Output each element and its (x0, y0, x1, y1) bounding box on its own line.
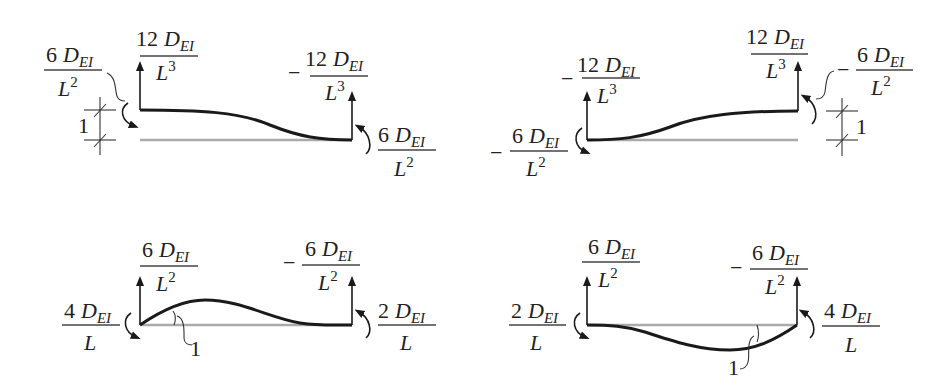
deflected-beam (140, 110, 352, 140)
right-moment-arrow-icon (805, 97, 816, 124)
left-moment-label: − 6DEI L2 (490, 123, 568, 181)
right-moment-label: − 6DEI L2 (837, 42, 913, 100)
left-moment-arrow-icon (125, 313, 136, 337)
svg-text:6DEI: 6DEI (378, 122, 426, 150)
left-moment-label: 4DEI L (62, 298, 120, 355)
svg-text:12DEI: 12DEI (577, 52, 636, 80)
unit-label: 1 (190, 336, 201, 361)
svg-text:−: − (288, 60, 300, 85)
deflected-beam (587, 325, 797, 350)
right-moment-label: 2DEI L (378, 298, 436, 355)
svg-text:6DEI: 6DEI (142, 237, 190, 265)
left-moment-arrow-icon (576, 128, 586, 152)
svg-text:L2: L2 (393, 154, 414, 181)
svg-text:L: L (399, 330, 412, 355)
svg-text:L: L (844, 332, 857, 357)
svg-text:−: − (730, 255, 742, 280)
panel-1: 1 12DEI L3 6DEI L2 − 12DEI L3 6DEI L2 (44, 26, 436, 181)
svg-text:6DEI: 6DEI (752, 240, 800, 268)
svg-text:−: − (283, 250, 295, 275)
panel-2: 1 − 12DEI L3 − 6DEI L2 12DEI L3 − 6DEI L… (490, 24, 913, 181)
svg-text:L3: L3 (765, 56, 786, 83)
left-moment-arrow-icon (574, 313, 585, 337)
svg-text:6DEI: 6DEI (46, 42, 94, 70)
svg-text:L3: L3 (155, 58, 176, 85)
svg-text:4DEI: 4DEI (824, 298, 872, 326)
leader-line (816, 71, 834, 99)
unit-label: 1 (728, 355, 739, 380)
svg-text:L2: L2 (870, 73, 891, 100)
svg-text:6DEI: 6DEI (588, 234, 636, 262)
deflected-beam (587, 111, 798, 140)
left-moment-label: 2DEI L (509, 298, 566, 355)
unit-label: 1 (856, 114, 867, 139)
svg-text:L2: L2 (597, 265, 618, 292)
svg-text:−: − (561, 66, 573, 91)
panel-4: 1 6DEI L2 2DEI L − 6DEI L2 4DEI L (509, 234, 880, 380)
svg-text:12DEI: 12DEI (136, 26, 195, 54)
svg-text:L: L (529, 330, 542, 355)
svg-text:L2: L2 (764, 272, 785, 299)
svg-text:L2: L2 (155, 269, 176, 296)
left-force-label: 6DEI L2 (582, 234, 640, 292)
deflected-beam (140, 300, 352, 325)
left-moment-arrow-icon (122, 103, 134, 126)
unit-label: 1 (78, 113, 89, 138)
svg-text:12DEI: 12DEI (746, 24, 805, 52)
svg-text:L2: L2 (57, 74, 78, 101)
left-force-label: 6DEI L2 (140, 237, 198, 296)
svg-text:L3: L3 (596, 81, 617, 108)
svg-text:2DEI: 2DEI (378, 298, 426, 326)
right-force-label: − 12DEI L3 (288, 46, 368, 105)
unit-dimension: 1 (826, 98, 867, 156)
leader-line (740, 336, 754, 369)
svg-text:2DEI: 2DEI (511, 298, 559, 326)
left-moment-label: 6DEI L2 (44, 42, 102, 101)
svg-text:−: − (490, 140, 502, 165)
svg-text:4DEI: 4DEI (64, 298, 112, 326)
right-force-label: − 6DEI L2 (283, 236, 360, 295)
svg-text:6DEI: 6DEI (512, 123, 560, 151)
svg-text:L3: L3 (324, 78, 345, 105)
rotation-angle-arc (757, 325, 759, 342)
svg-text:6DEI: 6DEI (305, 236, 353, 264)
svg-text:12DEI: 12DEI (305, 46, 364, 74)
leader-line (107, 73, 125, 101)
svg-text:L2: L2 (317, 268, 338, 295)
right-moment-arrow-icon (359, 127, 370, 154)
left-force-label: − 12DEI L3 (561, 52, 640, 108)
unit-dimension: 1 (78, 97, 116, 155)
svg-text:L: L (83, 330, 96, 355)
beam-stiffness-diagram: 1 12DEI L3 6DEI L2 − 12DEI L3 6DEI L2 (0, 0, 950, 390)
rotation-angle-arc (173, 311, 175, 325)
svg-text:6DEI: 6DEI (857, 42, 905, 70)
right-moment-arrow-icon (359, 312, 370, 338)
right-moment-arrow-icon (803, 312, 814, 338)
panel-3: 1 6DEI L2 4DEI L − 6DEI L2 2DEI L (62, 236, 436, 361)
left-force-label: 12DEI L3 (136, 26, 198, 85)
svg-text:L2: L2 (525, 154, 546, 181)
svg-text:−: − (837, 57, 849, 82)
right-moment-label: 6DEI L2 (378, 122, 436, 181)
right-moment-label: 4DEI L (822, 298, 880, 357)
